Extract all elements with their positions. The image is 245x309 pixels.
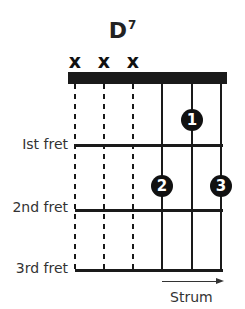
finger-dot-1: 1 bbox=[181, 109, 203, 131]
fret-line-3 bbox=[75, 269, 223, 272]
finger-dot-3: 3 bbox=[210, 175, 232, 197]
strum-arrow-icon bbox=[162, 281, 218, 282]
muted-string-marker-2: x bbox=[94, 50, 114, 72]
string-1-muted bbox=[74, 84, 76, 270]
fret-line-1 bbox=[75, 144, 223, 147]
strum-label: Strum bbox=[170, 289, 213, 305]
string-2-muted bbox=[103, 84, 105, 270]
string-3-muted bbox=[132, 84, 134, 270]
nut bbox=[68, 72, 227, 84]
chord-superscript: 7 bbox=[128, 18, 136, 32]
muted-string-marker-3: x bbox=[123, 50, 143, 72]
chord-name: D bbox=[109, 18, 127, 43]
fret-line-2 bbox=[75, 209, 223, 212]
muted-string-marker-1: x bbox=[65, 50, 85, 72]
finger-dot-2: 2 bbox=[151, 175, 173, 197]
fret-label-3: 3rd fret bbox=[0, 260, 68, 276]
fret-label-2: 2nd fret bbox=[0, 199, 68, 215]
fret-label-1: Ist fret bbox=[0, 136, 68, 152]
arrow-right-icon bbox=[216, 278, 224, 284]
chord-title: D7 bbox=[0, 18, 245, 43]
